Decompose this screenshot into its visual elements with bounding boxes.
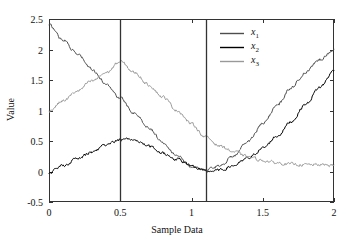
y-tick-label: 1 <box>0 105 43 116</box>
y-tick-label: 1.5 <box>0 75 43 86</box>
axis-box <box>50 20 334 202</box>
series-line-x1 <box>49 24 334 171</box>
x-axis-label: Sample Data <box>0 224 354 235</box>
y-tick-label: 0 <box>0 166 43 177</box>
x-tick-label: 1 <box>189 207 194 218</box>
x-tick-label: 2 <box>332 207 337 218</box>
chart-plot-area <box>0 0 354 248</box>
x-tick-label: 0 <box>47 207 52 218</box>
y-tick-label: 0.5 <box>0 136 43 147</box>
y-tick-label: 2 <box>0 44 43 55</box>
x-tick-label: 1.5 <box>257 207 270 218</box>
legend-label-x2: x2 <box>251 40 259 54</box>
series-line-x2 <box>49 70 334 173</box>
y-tick-label: -0.5 <box>0 197 43 208</box>
y-tick-label: 2.5 <box>0 14 43 25</box>
legend-label-x3: x3 <box>251 54 259 68</box>
legend-label-x1: x1 <box>251 26 259 40</box>
figure-container: Value Sample Data 2.521.510.50-0.5 00.51… <box>0 0 354 248</box>
series-line-x3 <box>49 61 334 167</box>
x-tick-label: 0.5 <box>114 207 127 218</box>
